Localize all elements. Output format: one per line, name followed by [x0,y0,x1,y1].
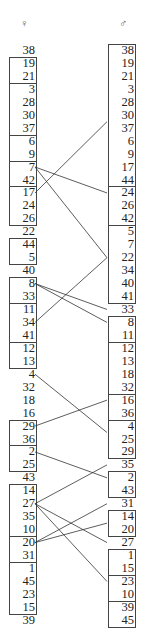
connection-line [35,452,107,478]
connection-line [35,504,107,582]
connection-line [35,167,107,258]
connection-line [35,284,107,310]
connection-line [35,284,107,323]
connection-line [35,122,107,193]
connection-line [35,258,107,323]
connection-lines [0,0,142,635]
connection-line [35,523,107,542]
connection-line [35,374,107,432]
connection-line [35,400,107,426]
connection-line [35,167,107,193]
connection-line [35,465,107,504]
